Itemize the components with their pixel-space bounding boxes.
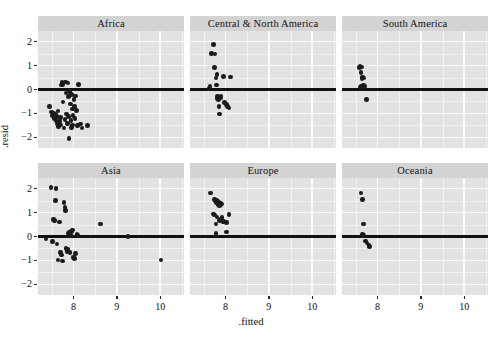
- data-point: [59, 253, 64, 258]
- gridline-horizontal-minor: [342, 272, 488, 273]
- gridline-horizontal-major: [190, 113, 336, 114]
- data-point: [60, 259, 65, 264]
- data-point: [219, 94, 224, 99]
- data-point: [367, 244, 372, 249]
- gridline-horizontal-major: [190, 188, 336, 189]
- plot-area: [342, 31, 488, 148]
- data-point: [70, 228, 75, 233]
- data-point: [217, 104, 222, 109]
- data-point: [227, 106, 232, 111]
- y-axis-tick-label: −1: [14, 255, 32, 265]
- data-point: [49, 185, 54, 190]
- data-point: [98, 222, 103, 227]
- x-axis-tick-mark: [268, 296, 269, 299]
- plot-area: [190, 31, 336, 148]
- y-axis-tick-mark: [34, 260, 37, 261]
- y-axis-tick-mark: [34, 212, 37, 213]
- figure-caption: [0, 333, 502, 341]
- plot-area: [38, 178, 184, 295]
- gridline-horizontal-major: [38, 284, 184, 285]
- y-axis-tick-mark: [34, 284, 37, 285]
- gridline-horizontal-minor: [38, 225, 184, 226]
- data-point: [73, 251, 78, 256]
- gridline-horizontal-major: [342, 41, 488, 42]
- gridline-horizontal-minor: [342, 125, 488, 126]
- gridline-horizontal-minor: [38, 78, 184, 79]
- data-point: [208, 84, 213, 89]
- gridline-horizontal-minor: [190, 248, 336, 249]
- gridline-horizontal-major: [38, 188, 184, 189]
- data-point: [73, 94, 78, 99]
- data-point: [213, 52, 218, 57]
- gridline-horizontal-minor: [38, 54, 184, 55]
- data-point: [360, 197, 365, 202]
- gridline-horizontal-major: [342, 65, 488, 66]
- x-axis-tick-mark: [225, 296, 226, 299]
- data-point: [212, 65, 217, 70]
- zero-reference-line: [38, 235, 184, 237]
- data-point: [85, 123, 90, 128]
- zero-reference-line: [38, 88, 184, 90]
- facet-strip-label: Europe: [190, 163, 336, 178]
- gridline-horizontal-minor: [38, 201, 184, 202]
- gridline-horizontal-minor: [342, 54, 488, 55]
- gridline-horizontal-major: [342, 260, 488, 261]
- facet-strip-label: Asia: [38, 163, 184, 178]
- zero-reference-line: [190, 88, 336, 90]
- x-axis-tick-mark: [160, 296, 161, 299]
- data-point: [61, 100, 66, 105]
- facet-strip-label: Africa: [38, 16, 184, 31]
- data-point: [54, 186, 59, 191]
- y-axis-tick-mark: [34, 236, 37, 237]
- data-point: [361, 222, 366, 227]
- facet-panel-south-america: South America: [342, 16, 488, 148]
- data-point: [67, 136, 72, 141]
- data-point: [224, 220, 229, 225]
- x-axis-tick-label: 8: [64, 302, 84, 312]
- gridline-horizontal-major: [38, 65, 184, 66]
- data-point: [214, 231, 219, 236]
- y-axis-tick-label: −2: [14, 132, 32, 142]
- data-point: [74, 108, 79, 113]
- data-point: [53, 198, 58, 203]
- data-point: [227, 212, 232, 217]
- y-axis-tick-mark: [34, 113, 37, 114]
- data-point: [359, 191, 364, 196]
- gridline-horizontal-minor: [190, 101, 336, 102]
- x-axis-tick-mark: [116, 296, 117, 299]
- gridline-horizontal-minor: [190, 272, 336, 273]
- y-axis-tick-label: 2: [14, 184, 32, 194]
- gridline-horizontal-major: [342, 284, 488, 285]
- y-axis-tick-label: 0: [14, 232, 32, 242]
- x-axis-tick-mark: [464, 296, 465, 299]
- data-point: [361, 233, 366, 238]
- data-point: [76, 82, 81, 87]
- x-axis-title: .fitted: [0, 316, 502, 327]
- data-point: [73, 116, 78, 121]
- data-point: [359, 65, 364, 70]
- y-axis-tick-label: 2: [14, 37, 32, 47]
- gridline-horizontal-minor: [38, 272, 184, 273]
- y-axis-tick-mark: [34, 65, 37, 66]
- x-axis-tick-label: 8: [368, 302, 388, 312]
- x-axis-tick-label: 10: [302, 302, 322, 312]
- data-point: [217, 112, 222, 117]
- gridline-horizontal-major: [38, 212, 184, 213]
- facet-panel-asia: Asia: [38, 163, 184, 295]
- facet-title-text: Asia: [38, 163, 184, 178]
- facet-title-text: South America: [342, 16, 488, 31]
- data-point: [47, 104, 52, 109]
- plot-area: [38, 31, 184, 148]
- data-point: [76, 233, 81, 238]
- y-axis-tick-label: 0: [14, 85, 32, 95]
- data-point: [214, 83, 219, 88]
- y-axis-tick-label: −1: [14, 108, 32, 118]
- gridline-horizontal-major: [190, 284, 336, 285]
- facet-panel-central-north-america: Central & North America: [190, 16, 336, 148]
- gridline-horizontal-minor: [190, 125, 336, 126]
- gridline-horizontal-major: [38, 41, 184, 42]
- gridline-horizontal-minor: [38, 248, 184, 249]
- facet-strip-label: South America: [342, 16, 488, 31]
- y-axis-tick-mark: [34, 188, 37, 189]
- y-axis-tick-label: 1: [14, 208, 32, 218]
